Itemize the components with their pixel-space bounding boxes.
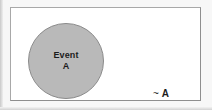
event-a-circle: Event A [28, 23, 104, 99]
sample-space-rectangle: Event A ~A [10, 7, 201, 101]
event-a-label: Event A [29, 50, 103, 72]
venn-diagram-figure: Event A ~A [0, 0, 212, 110]
event-a-label-line-1: Event [29, 50, 103, 61]
complement-set-name: A [162, 88, 169, 99]
tilde-icon: ~ [153, 88, 159, 100]
complement-region-label: ~A [153, 88, 169, 100]
event-a-label-line-2: A [29, 61, 103, 72]
